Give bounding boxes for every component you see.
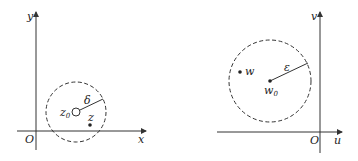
mapping-diagram: y x O z0 δ z v u O w0 ε w xyxy=(0,0,358,161)
origin-label: O xyxy=(25,133,34,146)
w0-label: w0 xyxy=(264,84,278,98)
w-plane: v u O w0 ε w xyxy=(217,10,342,153)
origin-label: O xyxy=(310,134,319,147)
z0-open-point xyxy=(72,108,80,116)
w-label: w xyxy=(245,65,255,78)
v-axis-label: v xyxy=(311,10,318,23)
x-axis-label: x xyxy=(138,133,145,146)
y-axis-label: y xyxy=(26,10,34,23)
w0-point xyxy=(268,79,272,83)
z-plane: y x O z0 δ z xyxy=(17,10,146,150)
z-label: z xyxy=(87,111,94,124)
delta-label: δ xyxy=(84,94,91,107)
w-point xyxy=(238,70,242,74)
z0-label: z0 xyxy=(59,106,71,120)
epsilon-label: ε xyxy=(284,61,290,74)
u-axis-label: u xyxy=(334,134,341,147)
